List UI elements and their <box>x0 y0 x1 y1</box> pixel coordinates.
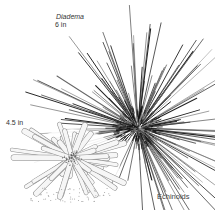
echinoid-illustration <box>0 0 215 210</box>
figure-caption: Echinoids <box>157 193 190 201</box>
pencil-urchin <box>12 124 124 202</box>
pencil-urchin-size-label: 4.5 in <box>6 119 23 127</box>
diadema-size-label: 6 in <box>55 21 66 29</box>
diadema-name-label: Diadema <box>56 13 84 21</box>
